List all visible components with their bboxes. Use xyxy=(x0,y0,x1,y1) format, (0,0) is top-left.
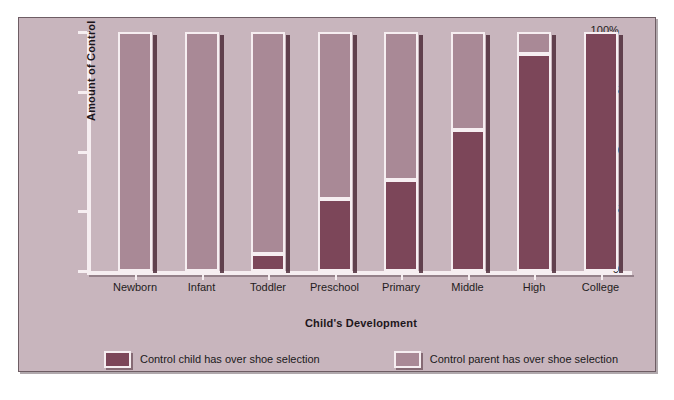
bar-segment-child[interactable] xyxy=(517,54,551,271)
bar-segment-child[interactable] xyxy=(384,180,418,271)
x-axis-tick xyxy=(468,275,470,280)
bar-newborn[interactable] xyxy=(118,32,152,271)
bar-shadow xyxy=(153,35,157,273)
bar-segment-parent[interactable] xyxy=(318,32,352,199)
bar-middle[interactable] xyxy=(451,32,485,271)
bar-shadow xyxy=(353,35,357,273)
bar-infant[interactable] xyxy=(185,32,219,271)
bar-segment-child[interactable] xyxy=(251,254,285,271)
legend-swatch xyxy=(104,351,131,368)
chart-panel: Amount of Control 100%7550250 NewbornInf… xyxy=(18,17,656,372)
x-axis-line-shadow xyxy=(89,275,634,277)
bar-shadow xyxy=(486,35,490,273)
legend-item-child[interactable]: Control child has over shoe selection xyxy=(104,351,320,368)
bar-toddler[interactable] xyxy=(251,32,285,271)
bar-shadow xyxy=(286,35,290,273)
x-axis-tick xyxy=(534,275,536,280)
bar-shadow xyxy=(220,35,224,273)
bar-segment-parent[interactable] xyxy=(384,32,418,180)
bar-segment-parent[interactable] xyxy=(451,32,485,130)
x-axis-tick xyxy=(401,275,403,280)
bar-shadow xyxy=(619,35,623,273)
bar-primary[interactable] xyxy=(384,32,418,271)
x-axis-tick xyxy=(601,275,603,280)
bar-shadow xyxy=(552,35,556,273)
bar-segment-child[interactable] xyxy=(584,32,618,271)
y-axis-tick xyxy=(78,31,87,34)
legend-label: Control parent has over shoe selection xyxy=(430,353,618,365)
y-axis-tick xyxy=(78,91,87,94)
bar-college[interactable] xyxy=(584,32,618,271)
bar-segment-parent[interactable] xyxy=(118,32,152,271)
legend: Control child has over shoe selectionCon… xyxy=(87,346,635,372)
x-axis-tick xyxy=(135,275,137,280)
y-axis-tick xyxy=(78,270,87,273)
bar-segment-child[interactable] xyxy=(451,130,485,271)
bar-high[interactable] xyxy=(517,32,551,271)
legend-item-parent[interactable]: Control parent has over shoe selection xyxy=(394,351,618,368)
bar-preschool[interactable] xyxy=(318,32,352,271)
bar-segment-child[interactable] xyxy=(318,199,352,271)
bar-segment-parent[interactable] xyxy=(517,32,551,54)
plot-area: Amount of Control 100%7550250 NewbornInf… xyxy=(87,25,635,287)
legend-swatch xyxy=(394,351,421,368)
x-axis-title: Child's Development xyxy=(87,317,635,329)
y-axis-title: Amount of Control xyxy=(85,20,97,121)
x-axis-tick-label: College xyxy=(561,281,641,293)
x-axis-tick xyxy=(202,275,204,280)
legend-label: Control child has over shoe selection xyxy=(140,353,320,365)
x-axis-tick xyxy=(268,275,270,280)
figure-root: Amount of Control 100%7550250 NewbornInf… xyxy=(0,0,674,400)
bar-segment-parent[interactable] xyxy=(185,32,219,271)
y-axis-tick xyxy=(78,210,87,213)
x-axis-tick xyxy=(335,275,337,280)
bar-shadow xyxy=(419,35,423,273)
bar-segment-parent[interactable] xyxy=(251,32,285,254)
y-axis-tick xyxy=(78,151,87,154)
